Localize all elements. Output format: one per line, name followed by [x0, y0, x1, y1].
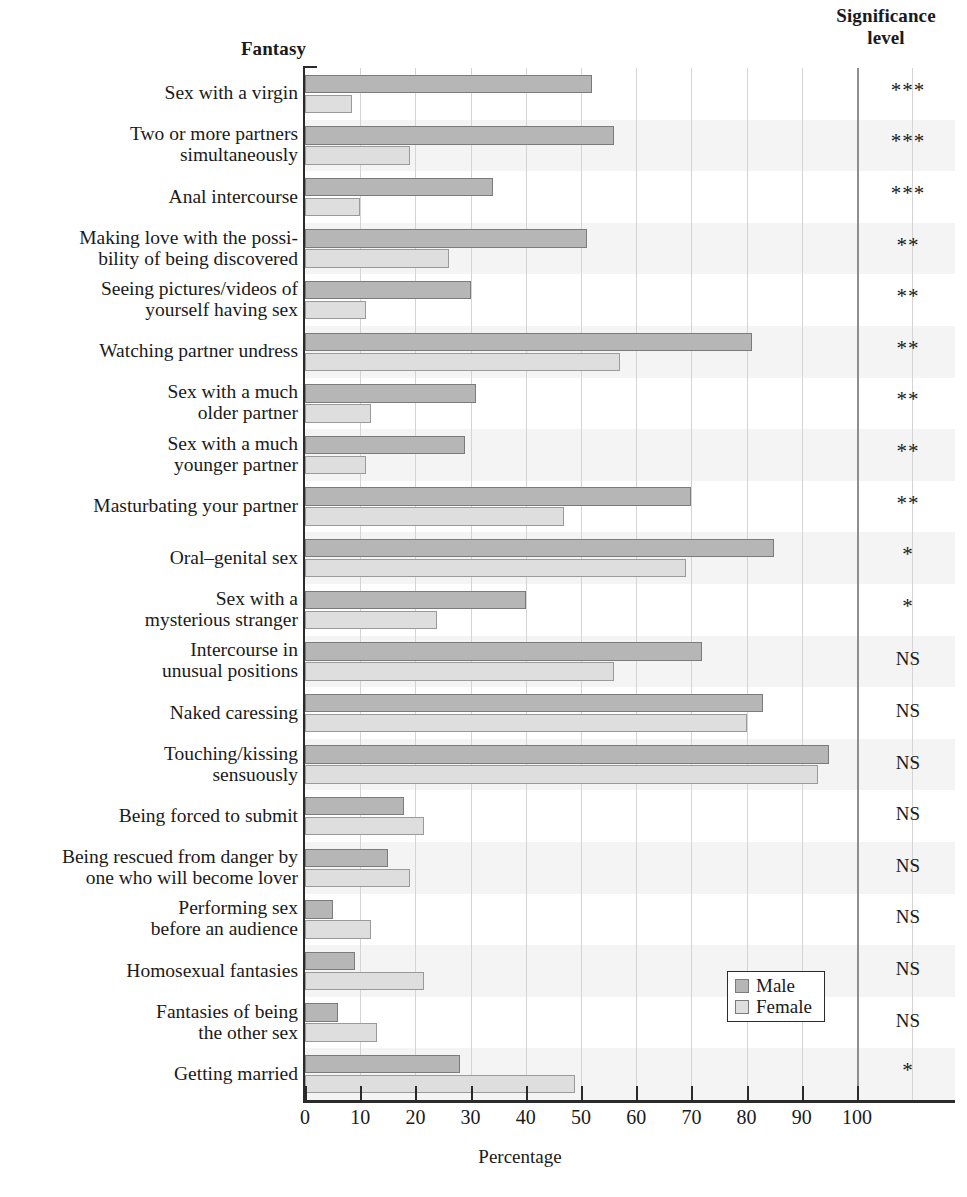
category-label-line: Sex with a much	[0, 381, 298, 402]
category-label-line: Getting married	[0, 1063, 298, 1084]
category-label-line: Anal intercourse	[0, 186, 298, 207]
bar-male	[305, 178, 493, 197]
category-label-line: one who will become lover	[0, 867, 298, 888]
legend-swatch-male-icon	[735, 979, 749, 993]
fantasy-percentage-chart: Fantasy Significance level 0102030405060…	[0, 0, 967, 1197]
bar-female	[305, 198, 360, 217]
gridline	[802, 68, 803, 1100]
category-label: Making love with the possi-bility of bei…	[0, 227, 298, 269]
bar-female	[305, 817, 424, 836]
bar-male	[305, 126, 614, 145]
bar-female	[305, 249, 449, 268]
category-label-line: before an audience	[0, 918, 298, 939]
legend-item-male[interactable]: Male	[735, 975, 812, 996]
x-tick-label: 70	[671, 1106, 711, 1129]
category-label: Oral–genital sex	[0, 547, 298, 568]
bar-male	[305, 694, 763, 713]
bar-male	[305, 642, 702, 661]
bar-male	[305, 384, 476, 403]
x-tick-label: 50	[561, 1106, 601, 1129]
category-label: Touching/kissingsensuously	[0, 743, 298, 785]
significance-value: *	[858, 1058, 958, 1083]
significance-value: NS	[858, 855, 958, 877]
category-label-line: older partner	[0, 402, 298, 423]
category-label-line: Naked caressing	[0, 702, 298, 723]
category-label: Being forced to submit	[0, 805, 298, 826]
bar-male	[305, 281, 471, 300]
bar-female	[305, 869, 410, 888]
significance-value: **	[858, 284, 958, 309]
x-tick-label: 10	[340, 1106, 380, 1129]
bar-female	[305, 404, 371, 423]
x-tick	[360, 1086, 362, 1100]
category-label-line: Making love with the possi-	[0, 227, 298, 248]
category-label-line: Fantasies of being	[0, 1001, 298, 1022]
bar-female	[305, 507, 564, 526]
legend[interactable]: Male Female	[727, 971, 825, 1022]
category-label-line: Being forced to submit	[0, 805, 298, 826]
category-label-line: sensuously	[0, 764, 298, 785]
significance-value: *	[858, 594, 958, 619]
x-tick	[857, 1086, 859, 1100]
category-label: Masturbating your partner	[0, 495, 298, 516]
significance-value: ***	[858, 78, 958, 103]
x-tick-label: 30	[451, 1106, 491, 1129]
significance-value: **	[858, 439, 958, 464]
category-label-line: the other sex	[0, 1022, 298, 1043]
category-label: Two or more partnerssimultaneously	[0, 123, 298, 165]
significance-value: **	[858, 336, 958, 361]
bar-male	[305, 745, 829, 764]
bar-female	[305, 662, 614, 681]
gridline	[691, 68, 692, 1100]
bar-male	[305, 436, 465, 455]
category-label-line: Seeing pictures/videos of	[0, 278, 298, 299]
significance-value: **	[858, 387, 958, 412]
category-label: Anal intercourse	[0, 186, 298, 207]
gridline	[747, 68, 748, 1100]
x-axis-line	[303, 1100, 955, 1103]
x-tick-label: 20	[395, 1106, 435, 1129]
category-label: Watching partner undress	[0, 340, 298, 361]
category-label-line: yourself having sex	[0, 299, 298, 320]
x-tick-label: 0	[285, 1106, 325, 1129]
bar-male	[305, 1055, 460, 1074]
x-tick-label: 100	[837, 1106, 877, 1129]
significance-value: **	[858, 491, 958, 516]
legend-swatch-female-icon	[735, 1000, 749, 1014]
bar-female	[305, 146, 410, 165]
gridline	[636, 68, 637, 1100]
bar-female	[305, 353, 620, 372]
x-tick-label: 90	[782, 1106, 822, 1129]
gridline	[526, 68, 527, 1100]
legend-item-female[interactable]: Female	[735, 996, 812, 1017]
x-tick	[747, 1086, 749, 1100]
bar-male	[305, 229, 587, 248]
category-label: Performing sexbefore an audience	[0, 897, 298, 939]
bar-female	[305, 972, 424, 991]
significance-value: *	[858, 542, 958, 567]
bar-male	[305, 797, 404, 816]
fantasy-column-header: Fantasy	[160, 38, 306, 60]
gridline	[912, 68, 913, 1100]
bar-female	[305, 765, 818, 784]
significance-value: NS	[858, 1010, 958, 1032]
legend-label-female: Female	[756, 996, 812, 1017]
bar-female	[305, 1075, 575, 1094]
bar-female	[305, 559, 686, 578]
plot-area	[305, 68, 955, 1100]
bar-female	[305, 95, 352, 114]
bar-female	[305, 1023, 377, 1042]
x-tick	[691, 1086, 693, 1100]
category-label-line: Being rescued from danger by	[0, 846, 298, 867]
category-label: Sex with a virgin	[0, 82, 298, 103]
significance-value: NS	[858, 958, 958, 980]
significance-value: NS	[858, 803, 958, 825]
bar-female	[305, 611, 437, 630]
bar-male	[305, 539, 774, 558]
gridline	[581, 68, 582, 1100]
category-label: Fantasies of beingthe other sex	[0, 1001, 298, 1043]
bar-female	[305, 920, 371, 939]
bar-male	[305, 952, 355, 971]
category-label-line: bility of being discovered	[0, 248, 298, 269]
category-label-line: Performing sex	[0, 897, 298, 918]
